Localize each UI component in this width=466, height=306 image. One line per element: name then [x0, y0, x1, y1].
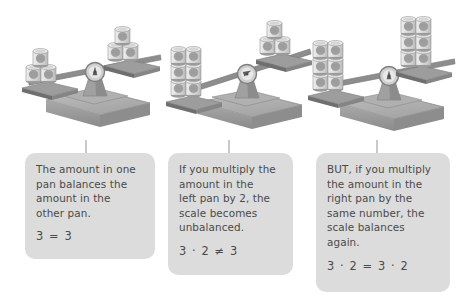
- can-stack-left: [313, 41, 343, 92]
- right-pan-group: [104, 27, 160, 79]
- can-stack-left: [171, 47, 201, 98]
- left-pan-group: [308, 41, 364, 109]
- illustration-canvas: The amount in one pan balances the amoun…: [0, 0, 466, 306]
- rebalanced-scale: [300, 10, 466, 136]
- can-stack-left: [26, 49, 56, 84]
- right-pan-group: [396, 17, 452, 85]
- callout-text: The amount in one pan balances the amoun…: [36, 162, 145, 220]
- can-stack-right: [401, 17, 431, 68]
- balanced-scale: [8, 16, 178, 134]
- scale-dial: [238, 65, 257, 84]
- callout-equation: 3 = 3: [36, 229, 145, 243]
- scale-dial: [380, 67, 399, 86]
- callout-equation: 3 · 2 ≠ 3: [179, 244, 283, 258]
- callout-unbalanced: If you multiply the amount in the left p…: [168, 153, 293, 275]
- can-stack-right: [260, 21, 290, 56]
- scale-dial: [86, 63, 105, 82]
- can-stack-right: [108, 27, 138, 62]
- callout-rebalanced: BUT, if you multiply the amount in the r…: [316, 153, 450, 292]
- callout-text: If you multiply the amount in the left p…: [179, 162, 283, 235]
- callout-balanced: The amount in one pan balances the amoun…: [25, 153, 155, 259]
- callout-text: BUT, if you multiply the amount in the r…: [327, 162, 440, 250]
- callout-equation: 3 · 2 = 3 · 2: [327, 259, 440, 273]
- connector-line-2: [228, 140, 230, 154]
- connector-line-3: [376, 140, 378, 154]
- connector-line-1: [85, 140, 87, 154]
